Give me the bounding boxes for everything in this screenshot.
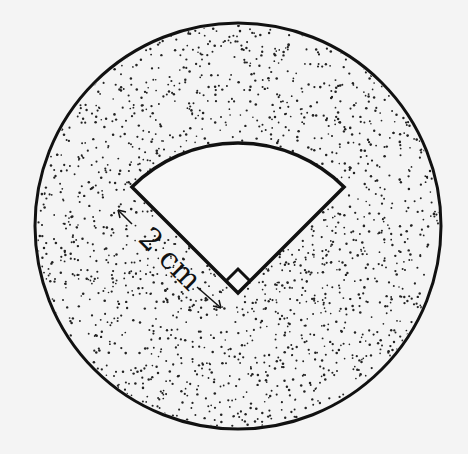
stipple-dot <box>422 105 425 108</box>
stipple-dot <box>105 426 107 428</box>
stipple-dot <box>158 425 161 428</box>
stipple-dot <box>407 238 409 240</box>
stipple-dot <box>381 345 383 347</box>
stipple-dot <box>313 298 315 300</box>
stipple-dot <box>381 264 383 266</box>
stipple-dot <box>239 362 241 364</box>
stipple-dot <box>120 416 122 418</box>
stipple-dot <box>344 169 346 171</box>
stipple-dot <box>197 51 199 53</box>
stipple-dot <box>413 340 415 342</box>
stipple-dot <box>229 78 231 80</box>
stipple-dot <box>151 376 153 378</box>
stipple-dot <box>249 100 251 102</box>
stipple-dot <box>402 117 404 119</box>
stipple-dot <box>421 125 423 127</box>
stipple-dot <box>322 257 324 259</box>
stipple-dot <box>375 32 377 34</box>
stipple-dot <box>110 31 112 33</box>
stipple-dot <box>149 271 151 273</box>
stipple-dot <box>131 115 133 117</box>
stipple-dot <box>295 416 298 419</box>
stipple-dot <box>183 130 185 132</box>
stipple-dot <box>322 211 325 214</box>
stipple-dot <box>100 176 103 179</box>
stipple-dot <box>127 291 129 293</box>
stipple-dot <box>326 225 328 227</box>
stipple-dot <box>277 357 279 359</box>
stipple-dot <box>445 339 447 341</box>
stipple-dot <box>338 396 340 398</box>
stipple-dot <box>151 112 154 115</box>
stipple-dot <box>152 365 154 367</box>
stipple-dot <box>278 281 280 283</box>
stipple-dot <box>117 301 119 303</box>
stipple-dot <box>325 311 327 313</box>
stipple-dot <box>268 32 270 34</box>
stipple-dot <box>207 86 209 88</box>
stipple-dot <box>150 28 152 30</box>
stipple-dot <box>443 108 445 110</box>
stipple-dot <box>313 86 315 88</box>
stipple-dot <box>120 203 122 205</box>
stipple-dot <box>94 225 96 227</box>
stipple-dot <box>368 188 370 190</box>
stipple-dot <box>362 333 364 335</box>
stipple-dot <box>53 384 55 386</box>
stipple-dot <box>322 271 325 274</box>
stipple-dot <box>429 170 432 173</box>
stipple-dot <box>363 389 365 391</box>
stipple-dot <box>53 61 55 63</box>
stipple-dot <box>317 65 319 67</box>
stipple-dot <box>50 403 52 405</box>
stipple-dot <box>109 324 111 326</box>
stipple-dot <box>177 344 179 346</box>
stipple-dot <box>390 207 392 209</box>
stipple-dot <box>257 93 259 95</box>
stipple-dot <box>336 269 338 271</box>
stipple-dot <box>246 109 248 111</box>
stipple-dot <box>151 274 153 276</box>
stipple-dot <box>228 349 230 351</box>
stipple-dot <box>225 124 227 126</box>
stipple-dot <box>60 338 62 340</box>
stipple-dot <box>414 200 416 202</box>
stipple-dot <box>105 169 107 171</box>
stipple-dot <box>39 294 42 297</box>
stipple-dot <box>401 73 403 75</box>
stipple-dot <box>222 41 224 43</box>
stipple-dot <box>331 286 333 288</box>
stipple-dot <box>127 181 130 184</box>
stipple-dot <box>271 127 273 129</box>
stipple-dot <box>368 77 371 80</box>
stipple-dot <box>422 347 424 349</box>
stipple-dot <box>287 49 289 51</box>
stipple-dot <box>438 104 440 106</box>
stipple-dot <box>54 79 56 81</box>
stipple-dot <box>261 51 263 53</box>
stipple-dot <box>313 230 315 232</box>
stipple-dot <box>312 114 315 117</box>
stipple-dot <box>203 94 205 96</box>
stipple-dot <box>254 420 256 422</box>
stipple-dot <box>440 83 442 85</box>
stipple-dot <box>228 355 230 357</box>
stipple-dot <box>178 298 180 300</box>
stipple-dot <box>209 368 211 370</box>
stipple-dot <box>445 413 448 416</box>
stipple-dot <box>426 335 428 337</box>
stipple-dot <box>289 309 291 311</box>
stipple-dot <box>207 405 209 407</box>
stipple-dot <box>343 430 345 432</box>
stipple-dot <box>40 117 42 119</box>
stipple-dot <box>296 100 298 102</box>
stipple-dot <box>35 70 37 72</box>
stipple-dot <box>41 235 43 237</box>
stipple-dot <box>57 31 59 33</box>
stipple-dot <box>406 367 408 369</box>
stipple-dot <box>53 281 55 283</box>
stipple-dot <box>302 360 304 362</box>
stipple-dot <box>367 95 370 98</box>
stipple-dot <box>334 120 336 122</box>
stipple-dot <box>373 82 375 84</box>
